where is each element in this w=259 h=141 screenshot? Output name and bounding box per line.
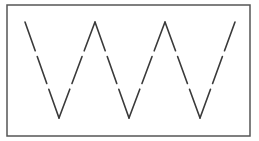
zigzag-dash — [129, 89, 140, 118]
zigzag-dash — [84, 22, 95, 51]
zigzag-dash — [178, 57, 188, 84]
zigzag-dash — [213, 57, 223, 84]
zigzag-dash — [165, 22, 176, 51]
zigzag-dash — [225, 22, 236, 51]
zigzag-dash — [25, 22, 35, 51]
zigzag-dash — [95, 22, 105, 51]
zigzag-dash — [190, 89, 201, 118]
zigzag-dash — [107, 57, 117, 84]
zigzag-dash — [72, 57, 82, 84]
zigzag-dash — [49, 89, 59, 118]
zigzag-dash — [200, 89, 211, 118]
diagram-canvas — [0, 0, 259, 141]
zigzag-dash — [119, 89, 129, 118]
zigzag-dash — [59, 89, 70, 118]
zigzag-line — [25, 22, 235, 118]
zigzag-dash — [142, 57, 152, 84]
zigzag-dash — [37, 57, 47, 84]
zigzag-dash — [154, 22, 165, 51]
